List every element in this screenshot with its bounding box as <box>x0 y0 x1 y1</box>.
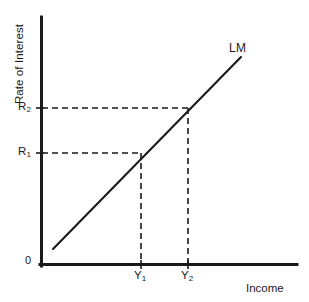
axes-group <box>40 17 297 266</box>
x-tick-label-y2-base: Y <box>181 269 189 281</box>
x-tick-label-y1-base: Y <box>134 269 142 281</box>
x-tick-label-y1-sub: 1 <box>142 274 147 283</box>
origin-label: 0 <box>25 255 31 266</box>
y-tick-label-r1: R1 <box>18 146 31 158</box>
lm-curve-group <box>53 57 241 249</box>
plot-canvas <box>0 0 309 302</box>
y-tick-label-r2: R2 <box>18 101 31 113</box>
lm-curve-label: LM <box>229 42 246 54</box>
lm-curve-figure: Rate of Interest Income 0 R2 R1 Y1 Y2 LM <box>0 0 309 302</box>
x-axis-title: Income <box>246 283 284 295</box>
x-tick-label-y2: Y2 <box>181 270 193 282</box>
y-tick-label-r1-sub: 1 <box>26 150 31 159</box>
x-tick-label-y1: Y1 <box>134 270 146 282</box>
x-tick-label-y2-sub: 2 <box>189 274 194 283</box>
y-axis-title-text: Rate of Interest <box>14 24 26 104</box>
y-tick-label-r2-sub: 2 <box>26 105 31 114</box>
lm-curve-line <box>53 57 241 249</box>
y-axis-title: Rate of Interest <box>10 18 30 110</box>
